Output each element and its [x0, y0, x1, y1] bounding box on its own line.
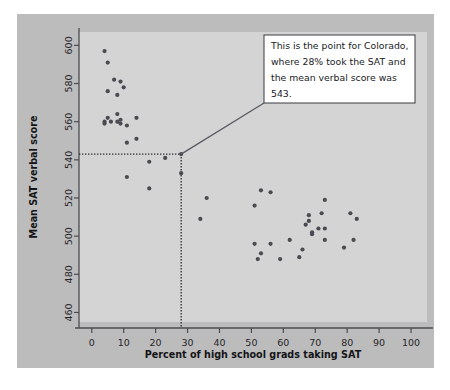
callout-box: This is the point for Colorado, where 28… [17, 14, 434, 368]
callout-line-2: where 28% took the SAT and [271, 56, 406, 67]
callout-line-3: the mean verbal score was [271, 72, 397, 83]
callout-line-1: This is the point for Colorado, [270, 40, 409, 51]
figure-panel: 0102030405060708090100460480500520540560… [17, 14, 434, 368]
callout-line-4: 543. [271, 88, 292, 99]
